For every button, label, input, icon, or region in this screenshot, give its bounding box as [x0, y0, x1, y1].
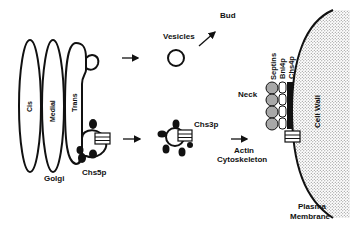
arrow-to-bud-icon [199, 32, 215, 46]
chs3p-membrane-icon [285, 131, 300, 142]
chs4p-icon [287, 82, 293, 129]
cell-wall-label: Cell Wall [313, 95, 322, 128]
cisterna-label-trans: Trans [71, 93, 78, 112]
actin-cytoskeleton-label-line1: Actin [234, 146, 254, 155]
septin-icon [266, 82, 278, 94]
chs3p-transmembrane-icon [95, 133, 110, 144]
bud-label: Bud [220, 11, 236, 20]
chs5p-blob-icon [179, 148, 186, 157]
chs5p-blob-icon [78, 153, 86, 163]
septins-label: Septins [269, 53, 278, 80]
chitin-synthase-trafficking-diagram: Cis Medial Trans Golgi Chs5p Vesicles Bu… [0, 0, 350, 233]
chs3p-transmembrane-icon [178, 130, 192, 141]
cisterna-label-cis: Cis [26, 101, 33, 112]
bni4p-icon [279, 106, 286, 117]
septin-icon [266, 118, 278, 130]
chs5p-blob-icon [163, 145, 170, 154]
plasma-membrane-label-line2: Membrane [290, 212, 331, 221]
bni4p-icon [279, 82, 286, 93]
chs5p-blob-icon [89, 119, 97, 129]
chs5p-blob-icon [89, 150, 97, 159]
chs5p-blob-icon [77, 146, 84, 154]
bni4p-icon [279, 94, 286, 105]
chs5p-blob-icon [187, 142, 193, 148]
vesicles-label: Vesicles [163, 32, 195, 41]
vesicle-icon [168, 50, 184, 66]
bottom-pathway: Chs3p Actin Cytoskeleton [123, 120, 267, 165]
neck-complex: Neck Septins Bni4p Chs4p [238, 53, 300, 142]
cisterna-label-medial: Medial [49, 100, 56, 122]
top-pathway: Vesicles Bud [122, 11, 236, 66]
chs5p-blob-icon [173, 120, 180, 129]
bni4p-icon [279, 118, 286, 129]
chs4p-label: Chs4p [287, 56, 296, 79]
chs5p-label: Chs5p [82, 168, 107, 177]
chs5p-blob-icon [158, 131, 167, 138]
cell-wall-region: Cell Wall Plasma Membrane [290, 10, 350, 221]
chs3p-label: Chs3p [194, 120, 219, 129]
bni4p-label: Bni4p [278, 58, 287, 79]
septin-icon [266, 94, 278, 106]
neck-label: Neck [238, 90, 258, 99]
golgi-label: Golgi [44, 174, 64, 183]
golgi-stack: Cis Medial Trans Golgi Chs5p [19, 40, 110, 183]
plasma-membrane-label-line1: Plasma [298, 202, 327, 211]
trans-bud-top-icon [86, 55, 98, 70]
septin-icon [266, 106, 278, 118]
actin-cytoskeleton-label-line2: Cytoskeleton [217, 155, 267, 164]
